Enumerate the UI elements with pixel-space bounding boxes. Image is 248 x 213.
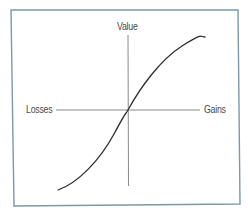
x-axis-negative-label: Losses <box>26 104 52 115</box>
x-axis-positive-label: Gains <box>204 104 226 115</box>
y-axis-label: Value <box>117 21 138 32</box>
